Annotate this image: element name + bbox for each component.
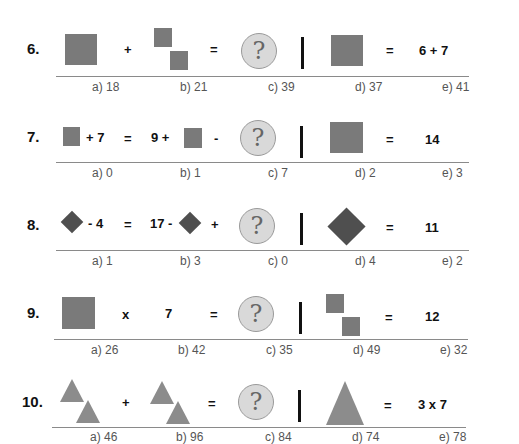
plus-operator: +	[124, 42, 132, 57]
answer-option-e[interactable]: e) 2	[442, 254, 463, 268]
result-expression: 3 x 7	[418, 397, 447, 412]
separator-line	[54, 339, 468, 340]
answer-option-d[interactable]: d) 37	[355, 80, 382, 94]
diamond-shape	[61, 211, 84, 234]
divider-bar	[298, 390, 301, 422]
result-expression: 14	[425, 132, 439, 147]
answer-option-c[interactable]: c) 7	[268, 166, 288, 180]
diamond-shape	[179, 212, 202, 235]
plus-operator: +	[211, 217, 219, 232]
answer-option-d[interactable]: d) 4	[355, 254, 376, 268]
answer-option-c[interactable]: c) 84	[265, 430, 292, 444]
square-shape	[184, 128, 202, 148]
problem-number: 8.	[27, 216, 40, 233]
question-mark-icon: ?	[240, 120, 276, 156]
result-expression: 12	[425, 309, 439, 324]
problem-number: 7.	[27, 128, 40, 145]
seventeen-minus-term: 17 -	[150, 216, 172, 231]
answer-option-d[interactable]: d) 74	[352, 430, 379, 444]
separator-line	[56, 250, 469, 251]
equals-sign: =	[385, 310, 393, 325]
result-expression: 11	[425, 220, 439, 235]
equals-sign: =	[384, 398, 392, 413]
answer-option-e[interactable]: e) 3	[442, 166, 463, 180]
answer-option-d[interactable]: d) 2	[355, 166, 376, 180]
answer-option-b[interactable]: b) 21	[180, 80, 207, 94]
equals-sign: =	[210, 42, 218, 57]
question-mark-icon: ?	[239, 208, 275, 244]
answer-option-c[interactable]: c) 35	[266, 343, 293, 357]
equals-sign: =	[208, 396, 216, 411]
minus-operator: -	[214, 131, 218, 146]
equals-sign: =	[124, 131, 132, 146]
square-shape	[63, 127, 80, 146]
divider-bar	[301, 37, 304, 69]
diamond-shape	[327, 207, 365, 245]
problem-number: 6.	[27, 40, 40, 57]
answer-option-d[interactable]: d) 49	[353, 343, 380, 357]
equals-sign: =	[386, 43, 394, 58]
nine-plus-term: 9 +	[151, 130, 169, 145]
triangle-shape	[166, 401, 190, 424]
plus-seven-term: + 7	[86, 130, 104, 145]
answer-option-a[interactable]: a) 18	[92, 80, 119, 94]
problem-number: 9.	[27, 304, 40, 321]
separator-line	[56, 162, 469, 163]
square-shape	[330, 122, 363, 153]
small-square-shape	[342, 317, 360, 336]
answer-option-a[interactable]: a) 1	[92, 254, 113, 268]
equals-sign: =	[386, 132, 394, 147]
small-square-shape	[154, 28, 172, 47]
answer-option-e[interactable]: e) 78	[439, 430, 466, 444]
divider-bar	[299, 302, 302, 334]
triangle-shape	[60, 379, 84, 402]
small-square-shape	[170, 51, 188, 70]
multiply-operator: x	[122, 307, 129, 322]
answer-option-b[interactable]: b) 96	[176, 430, 203, 444]
square-shape	[331, 35, 363, 66]
triangle-shape	[76, 400, 100, 423]
separator-line	[56, 76, 469, 77]
answer-option-c[interactable]: c) 0	[268, 254, 288, 268]
answer-option-b[interactable]: b) 3	[180, 254, 201, 268]
question-mark-icon: ?	[238, 384, 274, 420]
minus-four-term: - 4	[88, 216, 103, 231]
result-expression: 6 + 7	[419, 43, 448, 58]
small-square-shape	[326, 294, 344, 313]
divider-bar	[300, 213, 303, 245]
square-shape	[62, 297, 95, 329]
separator-line	[52, 427, 466, 428]
answer-option-b[interactable]: b) 1	[180, 166, 201, 180]
equals-sign: =	[386, 220, 394, 235]
answer-option-a[interactable]: a) 0	[92, 166, 113, 180]
equals-sign: =	[210, 307, 218, 322]
answer-option-b[interactable]: b) 42	[178, 343, 205, 357]
equals-sign: =	[124, 217, 132, 232]
problem-number: 10.	[22, 393, 43, 410]
question-mark-icon: ?	[241, 33, 277, 69]
divider-bar	[300, 126, 303, 158]
large-triangle-shape	[326, 381, 364, 425]
answer-option-a[interactable]: a) 26	[91, 343, 118, 357]
answer-option-a[interactable]: a) 46	[90, 430, 117, 444]
square-shape	[65, 34, 97, 65]
answer-option-c[interactable]: c) 39	[268, 80, 295, 94]
answer-option-e[interactable]: e) 32	[440, 343, 467, 357]
seven-term: 7	[165, 306, 172, 321]
plus-operator: +	[122, 395, 130, 410]
answer-option-e[interactable]: e) 41	[442, 80, 469, 94]
question-mark-icon: ?	[238, 296, 274, 332]
